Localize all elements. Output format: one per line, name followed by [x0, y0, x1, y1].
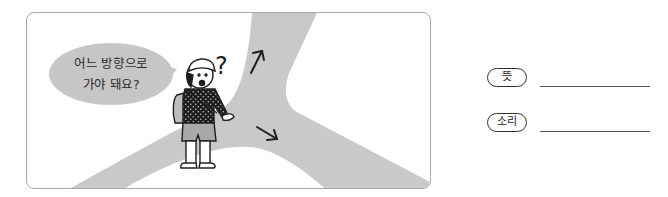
sound-label-pill: 소리 [487, 113, 527, 132]
meaning-answer-blank[interactable] [540, 86, 650, 87]
illustration-card: ? [26, 12, 431, 189]
speech-bubble-text: 어느 방향으로 가야 돼요? [51, 53, 171, 95]
speech-line-2: 가야 돼요? [51, 74, 171, 95]
question-mark-glyph: ? [215, 52, 228, 80]
meaning-label-pill: 뜻 [487, 68, 527, 87]
crossroads-illustration: ? [27, 13, 431, 189]
sound-answer-blank[interactable] [540, 131, 650, 132]
speech-line-1: 어느 방향으로 [51, 53, 171, 74]
